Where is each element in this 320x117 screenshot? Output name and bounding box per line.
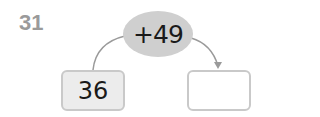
arrowhead-icon (214, 62, 222, 69)
right-arc (191, 38, 218, 66)
operation-oval: +49 (123, 11, 193, 57)
start-value: 36 (78, 77, 109, 105)
operation-label: +49 (133, 20, 183, 49)
answer-box[interactable] (187, 70, 251, 111)
left-arc (93, 36, 125, 70)
start-value-box: 36 (61, 70, 125, 111)
